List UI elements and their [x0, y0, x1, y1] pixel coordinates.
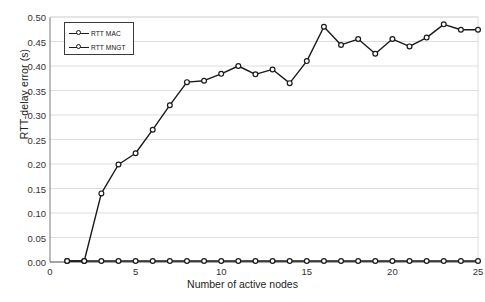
legend-label-rtt-mac: RTT MAC — [91, 30, 121, 37]
data-point-marker — [270, 259, 275, 264]
data-point-marker — [236, 259, 241, 264]
data-point-marker — [287, 81, 292, 86]
data-point-marker — [116, 162, 121, 167]
data-point-marker — [373, 51, 378, 56]
data-point-marker — [339, 43, 344, 48]
data-point-marker — [150, 127, 155, 132]
legend-marker-icon — [69, 43, 89, 52]
data-point-marker — [270, 67, 275, 72]
data-point-marker — [373, 259, 378, 264]
data-point-marker — [202, 78, 207, 83]
data-point-marker — [219, 259, 224, 264]
chart-container: RTT-delay error (s) Number of active nod… — [0, 0, 485, 302]
data-point-marker — [339, 259, 344, 264]
data-point-marker — [322, 24, 327, 29]
data-point-marker — [441, 259, 446, 264]
data-point-marker — [116, 259, 121, 264]
data-point-marker — [253, 259, 258, 264]
data-point-marker — [304, 59, 309, 64]
legend-marker-icon — [69, 29, 89, 38]
data-point-marker — [236, 64, 241, 69]
data-point-marker — [167, 103, 172, 108]
data-point-marker — [133, 259, 138, 264]
data-point-marker — [287, 259, 292, 264]
data-point-marker — [441, 22, 446, 27]
data-point-marker — [322, 259, 327, 264]
data-point-marker — [253, 72, 258, 77]
data-point-marker — [219, 71, 224, 76]
data-point-marker — [424, 35, 429, 40]
data-point-marker — [133, 151, 138, 156]
data-point-marker — [407, 44, 412, 49]
data-point-marker — [82, 259, 87, 264]
legend-label-rtt-mngt: RTT MNGT — [91, 44, 126, 51]
data-point-marker — [458, 259, 463, 264]
data-point-marker — [356, 37, 361, 42]
legend-item-rtt-mngt: RTT MNGT — [69, 40, 129, 54]
legend-item-rtt-mac: RTT MAC — [69, 26, 129, 40]
data-point-marker — [65, 259, 70, 264]
data-point-marker — [407, 259, 412, 264]
data-point-marker — [304, 259, 309, 264]
data-point-marker — [185, 259, 190, 264]
data-point-marker — [99, 259, 104, 264]
data-point-marker — [476, 27, 481, 32]
data-point-marker — [424, 259, 429, 264]
data-point-marker — [99, 191, 104, 196]
data-point-marker — [458, 27, 463, 32]
data-point-marker — [167, 259, 172, 264]
data-point-marker — [356, 259, 361, 264]
data-point-marker — [390, 37, 395, 42]
chart-legend: RTT MAC RTT MNGT — [64, 22, 134, 55]
data-point-marker — [476, 259, 481, 264]
data-point-marker — [185, 80, 190, 85]
data-point-marker — [390, 259, 395, 264]
data-point-marker — [150, 259, 155, 264]
data-point-marker — [202, 259, 207, 264]
